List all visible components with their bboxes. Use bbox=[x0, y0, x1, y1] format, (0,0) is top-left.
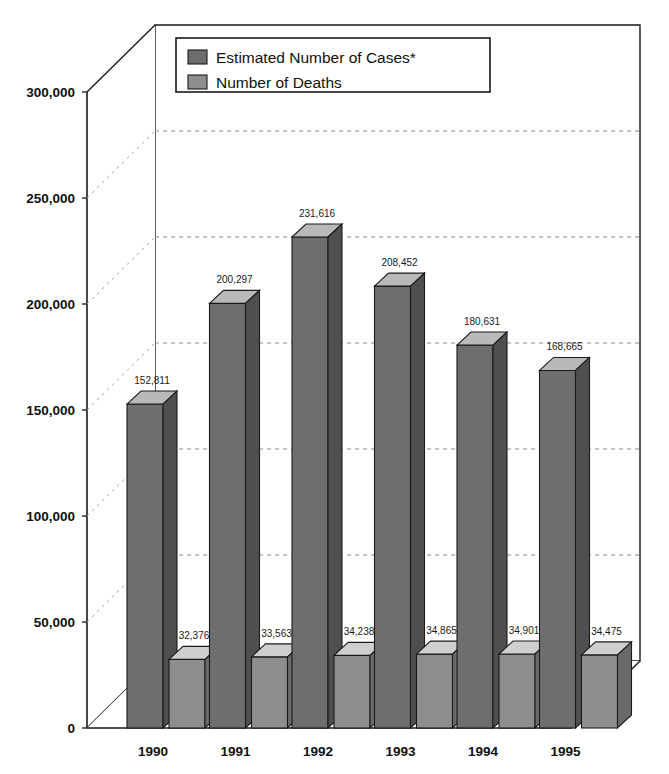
value-label-cases-1992: 231,616 bbox=[299, 208, 336, 219]
y-axis-tick-label: 50,000 bbox=[34, 615, 75, 630]
value-label-cases-1990: 152,811 bbox=[134, 375, 170, 386]
value-label-cases-1995: 168,665 bbox=[546, 341, 583, 352]
bar-chart-3d: 050,000100,000150,000200,000250,000300,0… bbox=[0, 0, 669, 774]
value-label-deaths-1995: 34,475 bbox=[591, 626, 622, 637]
x-axis-label-1991: 1991 bbox=[220, 744, 251, 759]
bar-deaths-1995-front-face bbox=[582, 655, 618, 728]
y-axis-tick-label: 100,000 bbox=[26, 509, 75, 524]
bar-deaths-1991-front-face bbox=[252, 657, 288, 728]
value-label-cases-1993: 208,452 bbox=[381, 257, 418, 268]
x-axis-label-1995: 1995 bbox=[550, 744, 581, 759]
value-label-deaths-1993: 34,865 bbox=[426, 625, 457, 636]
value-label-deaths-1994: 34,901 bbox=[509, 625, 540, 636]
y-axis-tick-label: 300,000 bbox=[26, 85, 75, 100]
chart-container: 050,000100,000150,000200,000250,000300,0… bbox=[0, 0, 669, 774]
bar-deaths-1995 bbox=[582, 642, 632, 728]
x-axis-label-1992: 1992 bbox=[303, 744, 333, 759]
x-axis-label-1994: 1994 bbox=[468, 744, 499, 759]
x-axis-label-1990: 1990 bbox=[138, 744, 168, 759]
bar-cases-1990-front-face bbox=[127, 404, 163, 728]
bar-deaths-1995-side-face bbox=[618, 642, 632, 728]
bar-cases-1992 bbox=[292, 224, 342, 728]
y-axis-tick-label: 150,000 bbox=[26, 403, 75, 418]
y-axis-tick-label: 0 bbox=[67, 721, 75, 736]
bar-deaths-1990-front-face bbox=[169, 659, 205, 728]
bar-cases-1993-front-face bbox=[375, 286, 411, 728]
value-label-deaths-1990: 32,376 bbox=[179, 630, 210, 641]
chart-legend: Estimated Number of Cases*Number of Deat… bbox=[176, 38, 490, 92]
bar-deaths-1993-front-face bbox=[417, 654, 453, 728]
bar-cases-1991-front-face bbox=[210, 303, 246, 728]
value-label-deaths-1992: 34,238 bbox=[344, 626, 375, 637]
bar-deaths-1994-front-face bbox=[499, 654, 535, 728]
x-axis-label-1993: 1993 bbox=[385, 744, 416, 759]
bar-deaths-1992-front-face bbox=[334, 655, 370, 728]
legend-swatch-cases bbox=[188, 50, 207, 64]
legend-swatch-deaths bbox=[188, 75, 207, 89]
bar-cases-1995-front-face bbox=[540, 370, 576, 728]
bar-cases-1994-front-face bbox=[457, 345, 493, 728]
y-axis-tick-label: 200,000 bbox=[26, 297, 75, 312]
y-axis-tick-label: 250,000 bbox=[26, 191, 75, 206]
bar-cases-1992-front-face bbox=[292, 237, 328, 728]
value-label-cases-1991: 200,297 bbox=[216, 274, 253, 285]
legend-label-deaths: Number of Deaths bbox=[216, 74, 342, 91]
value-label-cases-1994: 180,631 bbox=[464, 316, 501, 327]
legend-label-cases: Estimated Number of Cases* bbox=[216, 49, 416, 66]
value-label-deaths-1991: 33,563 bbox=[261, 628, 292, 639]
